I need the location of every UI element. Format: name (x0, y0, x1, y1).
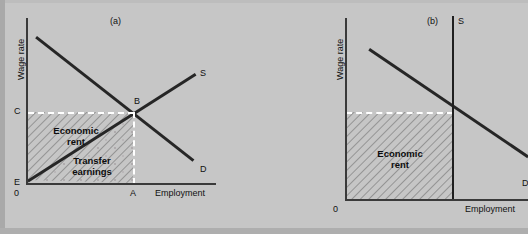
equilibrium-wage-guide-b (346, 112, 453, 114)
y-axis-label-a: Wage rate (16, 39, 26, 80)
x-axis-b (345, 199, 528, 201)
origin-label-b: 0 (333, 204, 338, 214)
demand-curve-label-b: D (522, 178, 528, 188)
panel-b: Wage rate (b) S D 0 Employment Economic … (264, 0, 528, 234)
supply-curve-label-a: S (200, 68, 206, 78)
economic-rent-label-b-line1: Economic (377, 148, 422, 159)
x-axis-a (26, 183, 216, 185)
point-label-c-a: C (14, 106, 21, 116)
panel-caption-a: (a) (110, 16, 121, 26)
point-label-b-a: B (134, 96, 140, 106)
y-axis-a (26, 18, 28, 185)
panel-caption-b: (b) (427, 16, 438, 26)
transfer-earnings-label-line1: Transfer (73, 155, 111, 166)
point-label-a-a: A (130, 188, 136, 198)
x-axis-label-b: Employment (465, 204, 515, 214)
equilibrium-wage-guide-a (28, 112, 134, 114)
point-label-e-a: E (14, 177, 20, 187)
origin-label-a: 0 (14, 188, 19, 198)
economic-rent-label-line1: Economic (53, 125, 98, 136)
supply-curve-b (452, 16, 454, 201)
transfer-earnings-label-a: Transfer earnings (56, 155, 128, 177)
equilibrium-employment-guide-a (133, 112, 135, 184)
y-axis-b (345, 18, 347, 200)
x-axis-label-a: Employment (155, 188, 205, 198)
supply-curve-label-b: S (458, 16, 464, 26)
economic-rent-label-b-line2: rent (391, 159, 409, 170)
transfer-earnings-label-line2: earnings (72, 166, 112, 177)
economics-figure: Wage rate (a) S D B C A E 0 Employment E… (0, 0, 528, 234)
economic-rent-label-a: Economic rent (38, 125, 114, 147)
economic-rent-label-b: Economic rent (362, 148, 438, 170)
panel-a: Wage rate (a) S D B C A E 0 Employment E… (0, 0, 264, 234)
economic-rent-label-line2: rent (67, 136, 85, 147)
demand-curve-label-a: D (200, 164, 207, 174)
y-axis-label-b: Wage rate (335, 39, 345, 80)
